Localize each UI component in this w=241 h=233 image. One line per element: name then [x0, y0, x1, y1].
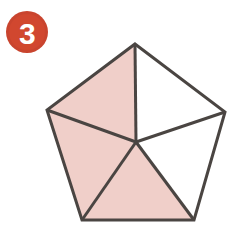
numbered-circle-badge-icon: 3 [6, 11, 48, 53]
figure-container: 3 [0, 0, 241, 233]
pentagon-figure-svg: 3 [0, 0, 241, 233]
badge-number-label: 3 [19, 17, 35, 50]
spoke-to-apex [135, 44, 136, 142]
